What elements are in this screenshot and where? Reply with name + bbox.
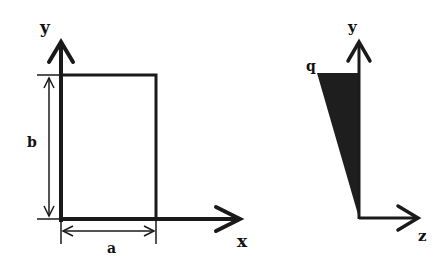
dimension-a-label: a bbox=[107, 240, 116, 256]
triangular-load bbox=[317, 73, 359, 218]
load-q-label: q bbox=[306, 58, 316, 74]
right-y-axis-label: y bbox=[347, 18, 358, 36]
right-z-axis-label: z bbox=[418, 227, 427, 245]
left-figure: y x b a bbox=[27, 17, 248, 256]
left-y-axis-label: y bbox=[39, 17, 51, 37]
left-x-axis-label: x bbox=[237, 231, 248, 251]
plate-rectangle bbox=[61, 75, 156, 219]
dimension-b-label: b bbox=[27, 134, 37, 150]
diagram-canvas: y x b a y z q bbox=[0, 0, 447, 266]
right-figure: y z q bbox=[306, 18, 427, 245]
